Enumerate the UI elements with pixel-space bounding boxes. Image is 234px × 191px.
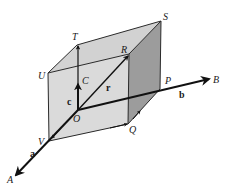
label-point-U: U xyxy=(38,70,46,81)
label-point-Q: Q xyxy=(129,124,137,135)
label-point-C: C xyxy=(82,75,89,86)
label-vector-r: r xyxy=(106,82,111,93)
label-point-O: O xyxy=(73,113,80,124)
vector-box-diagram: T S R U C P B O Q V A c r b a xyxy=(0,0,234,191)
label-point-B: B xyxy=(213,74,219,85)
label-point-A: A xyxy=(6,174,14,185)
label-point-S: S xyxy=(163,11,168,22)
label-vector-b: b xyxy=(179,89,185,100)
label-point-T: T xyxy=(72,31,79,42)
label-point-R: R xyxy=(120,44,127,55)
label-vector-a: a xyxy=(30,148,35,159)
label-point-P: P xyxy=(164,75,171,86)
vector-a-arrow xyxy=(16,110,78,175)
label-vector-c: c xyxy=(67,96,72,107)
